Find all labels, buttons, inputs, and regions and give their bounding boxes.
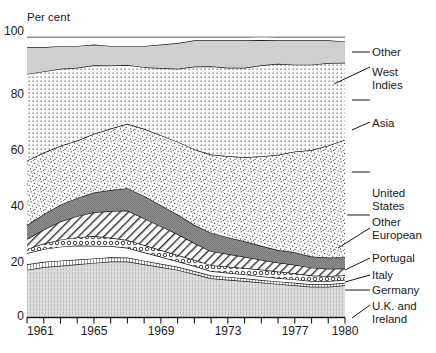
x-tick-label-1980: 1980 <box>332 324 359 338</box>
series-label-west-indies-2: Indies <box>372 79 403 91</box>
x-tick-label-1973: 1973 <box>215 324 242 338</box>
stacked-area-bands <box>27 37 345 317</box>
series-label-uk-ireland-2: Ireland <box>372 313 407 325</box>
y-tick-label-60: 60 <box>11 143 25 157</box>
series-label-other: Other <box>372 46 401 58</box>
y-tick-label-40: 40 <box>11 199 25 213</box>
y-tick-label-20: 20 <box>11 255 25 269</box>
x-tick-label-1977: 1977 <box>282 324 309 338</box>
series-label-united-states-2: States <box>372 200 405 212</box>
stacked-area-chart: Per cent 100 80 60 40 20 0 1961 1 <box>0 0 436 353</box>
y-axis-unit-label: Per cent <box>27 11 71 23</box>
series-label-other-european-2: European <box>372 229 422 241</box>
y-tick-label-100: 100 <box>4 24 24 38</box>
series-label-other-european-1: Other <box>372 216 401 228</box>
series-label-portugal: Portugal <box>372 252 415 264</box>
y-tick-label-80: 80 <box>11 87 25 101</box>
x-tick-label-1969: 1969 <box>148 324 175 338</box>
x-tick-label-1961: 1961 <box>27 324 54 338</box>
series-label-asia: Asia <box>372 117 395 129</box>
series-label-germany: Germany <box>372 284 420 296</box>
series-label-italy: Italy <box>372 269 393 281</box>
series-label-united-states-1: United <box>372 187 405 199</box>
y-tick-label-0: 0 <box>17 309 24 323</box>
x-tick-label-1965: 1965 <box>81 324 108 338</box>
series-label-uk-ireland-1: U.K. and <box>372 300 417 312</box>
series-label-west-indies-1: West <box>372 66 399 78</box>
chart-canvas: Per cent 100 80 60 40 20 0 1961 1 <box>0 0 436 353</box>
